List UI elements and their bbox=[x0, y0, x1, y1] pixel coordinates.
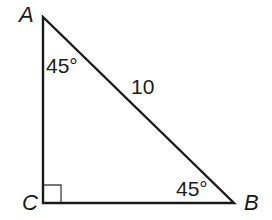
angle-label-a: 45° bbox=[46, 55, 78, 76]
angle-label-b: 45° bbox=[176, 178, 208, 199]
triangle-figure bbox=[0, 0, 272, 220]
triangle-diagram: A C B 45° 45° 10 bbox=[0, 0, 272, 220]
triangle-abc bbox=[43, 17, 234, 203]
vertex-label-a: A bbox=[19, 4, 34, 26]
vertex-label-b: B bbox=[244, 192, 259, 214]
right-angle-marker-icon bbox=[44, 185, 61, 202]
side-label-ab: 10 bbox=[131, 76, 154, 97]
vertex-label-c: C bbox=[22, 192, 38, 214]
